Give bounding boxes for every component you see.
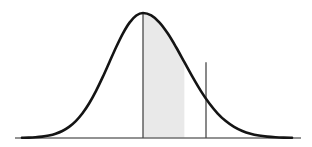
shaded-area-region	[22, 13, 292, 138]
normal-distribution-figure	[0, 0, 312, 147]
bell-curve-chart	[0, 0, 312, 147]
